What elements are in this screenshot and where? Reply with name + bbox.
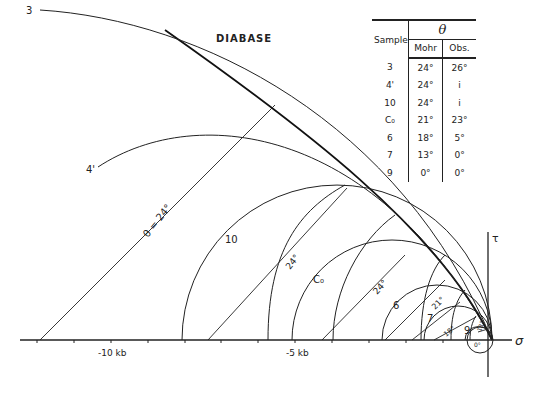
diagram-title: DIABASE (216, 33, 272, 44)
sigma-label: σ (515, 333, 524, 348)
cell-obs: 5° (443, 129, 476, 147)
cell-mohr: 21° (408, 112, 442, 130)
cell-obs: 0° (443, 147, 476, 165)
label-circle-C0: C₀ (313, 274, 324, 285)
label-circle-7: 7 (427, 313, 433, 324)
tau-label: τ (492, 232, 499, 245)
table-row: 3 24° 26° (372, 58, 476, 77)
label-angle-0: 0° (474, 341, 481, 348)
circle-6 (382, 285, 492, 340)
label-angle-C0: 24° (371, 278, 389, 297)
label-theta-main: θ = 24° (141, 202, 173, 239)
sigma-axis (20, 340, 512, 343)
cell-sample: 9 (372, 164, 408, 182)
label-circle-6: 6 (393, 300, 399, 311)
tick-label-neg10: -10 kb (98, 348, 127, 358)
cell-obs: 23° (443, 112, 476, 130)
label-circle-3: 3 (26, 5, 32, 16)
header-mohr: Mohr (408, 39, 442, 58)
cell-obs: i (443, 77, 476, 95)
table-row: 4' 24° i (372, 77, 476, 95)
cell-mohr: 18° (408, 129, 442, 147)
cell-sample: 3 (372, 58, 408, 77)
label-circle-10: 10 (225, 234, 238, 245)
table-row: 7 13° 0° (372, 147, 476, 165)
cell-mohr: 24° (408, 58, 442, 77)
cell-mohr: 24° (408, 77, 442, 95)
label-circle-4prime: 4' (86, 164, 95, 175)
cell-obs: 26° (443, 58, 476, 77)
table-row: 6 18° 5° (372, 129, 476, 147)
table-row: C₀ 21° 23° (372, 112, 476, 130)
header-theta: θ (408, 20, 476, 39)
cell-mohr: 24° (408, 94, 442, 112)
cell-sample: 4' (372, 77, 408, 95)
table-row: 9 0° 0° (372, 164, 476, 182)
label-angle-10: 24° (284, 253, 302, 272)
tick-label-neg5: -5 kb (286, 348, 309, 358)
theta-table: Sample θ Mohr Obs. 3 24° 26° 4' 24° i 10… (372, 19, 476, 182)
cell-obs: 0° (443, 164, 476, 182)
cell-sample: 10 (372, 94, 408, 112)
cell-mohr: 13° (408, 147, 442, 165)
cell-sample: 7 (372, 147, 408, 165)
header-sample: Sample (372, 20, 408, 58)
header-obs: Obs. (443, 39, 476, 58)
label-circle-9: 9 (464, 325, 470, 336)
circle-10 (182, 185, 492, 340)
cell-obs: i (443, 94, 476, 112)
label-angle-7: 18° (442, 325, 457, 339)
table-row: 10 24° i (372, 94, 476, 112)
cell-mohr: 0° (408, 164, 442, 182)
cell-sample: 6 (372, 129, 408, 147)
cell-sample: C₀ (372, 112, 408, 130)
